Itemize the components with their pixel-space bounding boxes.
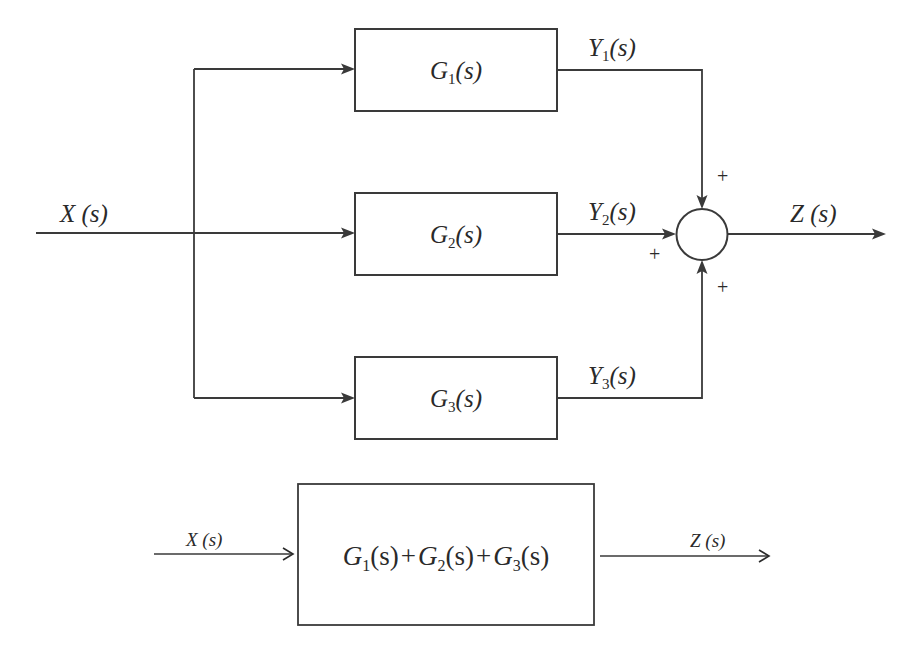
y2-label: Y2(s) bbox=[588, 198, 636, 228]
svg-text:G3(s): G3(s) bbox=[430, 385, 482, 415]
svg-text:G1(s): G1(s) bbox=[430, 57, 482, 87]
parallel-diagram: X (s) G1(s) G2(s) G3(s) bbox=[36, 29, 886, 439]
equiv-output-label: Z (s) bbox=[690, 530, 725, 552]
y1-label: Y1(s) bbox=[588, 34, 636, 64]
output-label: Z (s) bbox=[790, 200, 837, 228]
block-g1: G1(s) bbox=[355, 29, 557, 111]
plus-sign-bottom: + bbox=[717, 276, 728, 298]
y3-label: Y3(s) bbox=[588, 362, 636, 392]
y1-signal-line bbox=[557, 70, 702, 200]
summing-junction bbox=[677, 209, 728, 260]
equiv-input-label: X (s) bbox=[185, 529, 222, 551]
equivalent-diagram: X (s) G1(s)+G2(s)+G3(s) Z (s) bbox=[154, 484, 769, 625]
block-g2: G2(s) bbox=[355, 193, 557, 275]
block-diagram: X (s) G1(s) G2(s) G3(s) bbox=[0, 0, 919, 666]
plus-sign-top: + bbox=[717, 165, 728, 187]
plus-sign-left: + bbox=[649, 243, 660, 265]
block-g3: G3(s) bbox=[355, 357, 557, 439]
input-label: X (s) bbox=[59, 200, 108, 228]
svg-text:G2(s): G2(s) bbox=[430, 221, 482, 251]
